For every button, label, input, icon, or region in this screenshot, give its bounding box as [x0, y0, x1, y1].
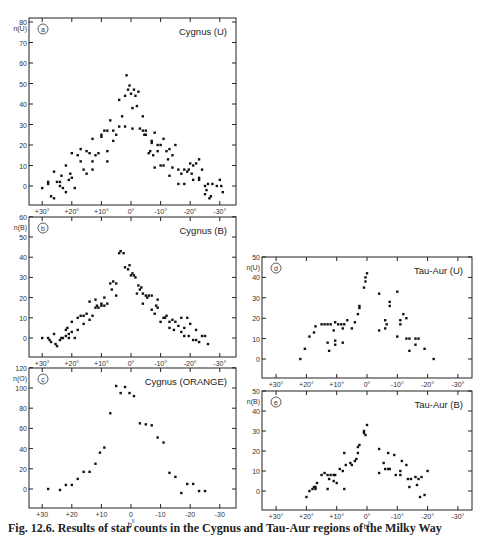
- data-point: [156, 298, 158, 300]
- data-point: [204, 335, 206, 337]
- data-point: [216, 185, 218, 187]
- data-point: [168, 175, 170, 177]
- data-point: [357, 313, 359, 315]
- data-point: [432, 358, 434, 360]
- panel-title: Tau-Aur (U): [414, 265, 463, 276]
- data-point: [77, 478, 79, 480]
- data-point: [378, 293, 380, 295]
- data-point: [378, 448, 380, 450]
- data-point: [313, 331, 315, 333]
- data-point: [207, 343, 209, 345]
- data-point: [204, 490, 206, 492]
- data-point: [156, 150, 158, 152]
- x-tick-label: +20°: [64, 208, 79, 215]
- data-point: [115, 385, 117, 387]
- data-point: [74, 337, 76, 339]
- y-tick-label: 30: [252, 428, 260, 435]
- y-tick-label: 10: [252, 336, 260, 343]
- data-point: [195, 339, 197, 341]
- data-point: [106, 302, 108, 304]
- data-point: [41, 337, 43, 339]
- data-point: [69, 173, 71, 175]
- x-tick-label: -30°: [213, 208, 226, 215]
- data-point: [396, 335, 398, 337]
- data-point: [145, 423, 147, 425]
- data-points: [299, 272, 435, 360]
- data-point: [151, 294, 153, 296]
- data-point: [305, 496, 307, 498]
- data-point: [149, 150, 151, 152]
- data-point: [385, 323, 387, 325]
- data-point: [201, 335, 203, 337]
- y-tick-label: 30: [252, 295, 260, 302]
- data-point: [159, 144, 161, 146]
- data-point: [366, 272, 368, 274]
- y-tick-label: 20: [19, 142, 27, 149]
- data-point: [94, 298, 96, 300]
- data-point: [130, 93, 132, 95]
- x-tick-label: -30°: [451, 513, 464, 520]
- data-point: [91, 160, 93, 162]
- y-tick-label: 40: [19, 446, 27, 453]
- data-point: [180, 173, 182, 175]
- y-tick-label: 40: [252, 408, 260, 415]
- data-point: [183, 327, 185, 329]
- x-tick-label: +10°: [94, 360, 109, 367]
- data-point: [417, 337, 419, 339]
- panel-label: a: [41, 26, 45, 33]
- data-point: [112, 129, 114, 131]
- x-tick-label: +30: [36, 511, 48, 518]
- data-point: [416, 484, 418, 486]
- data-point: [399, 319, 401, 321]
- data-point: [136, 292, 138, 294]
- data-point: [201, 168, 203, 170]
- x-tick-label: +10°: [329, 513, 344, 520]
- data-point: [171, 154, 173, 156]
- data-point: [133, 395, 135, 397]
- data-point: [65, 164, 67, 166]
- panel-label: c: [41, 376, 45, 383]
- data-point: [342, 470, 344, 472]
- data-point: [320, 323, 322, 325]
- plot-frame: [29, 18, 236, 205]
- y-tick-label: 0: [23, 183, 27, 190]
- data-point: [174, 321, 176, 323]
- data-point: [111, 288, 113, 290]
- data-point: [389, 301, 391, 303]
- data-point: [127, 88, 129, 90]
- data-point: [94, 154, 96, 156]
- data-point: [124, 125, 126, 127]
- y-tick-label: 50: [19, 81, 27, 88]
- data-point: [211, 183, 213, 185]
- data-point: [337, 323, 339, 325]
- data-point: [334, 339, 336, 341]
- data-point: [192, 164, 194, 166]
- x-tick-label: +10°: [329, 381, 344, 388]
- data-point: [180, 317, 182, 319]
- data-point: [198, 177, 200, 179]
- data-point: [384, 327, 386, 329]
- data-point: [100, 136, 102, 138]
- data-point: [173, 329, 175, 331]
- data-point: [71, 484, 73, 486]
- data-point: [85, 313, 87, 315]
- x-tick-label: -20°: [421, 513, 434, 520]
- data-point: [189, 162, 191, 164]
- data-point: [177, 168, 179, 170]
- data-point: [378, 472, 380, 474]
- data-point: [53, 333, 55, 335]
- y-tick-label: 10: [252, 468, 260, 475]
- data-point: [82, 323, 84, 325]
- y-tick-label: 40: [252, 274, 260, 281]
- y-axis-label: n(B): [14, 224, 27, 232]
- data-point: [328, 350, 330, 352]
- data-point: [115, 294, 117, 296]
- data-point: [405, 464, 407, 466]
- data-point: [308, 335, 310, 337]
- panel-b: 0102030405060+30°+20°+10°0°-10°-20°-30°n…: [14, 214, 236, 367]
- data-point: [174, 144, 176, 146]
- x-tick-label: +20°: [64, 360, 79, 367]
- data-point: [88, 300, 90, 302]
- data-point: [47, 488, 49, 490]
- y-tick-label: 0: [256, 488, 260, 495]
